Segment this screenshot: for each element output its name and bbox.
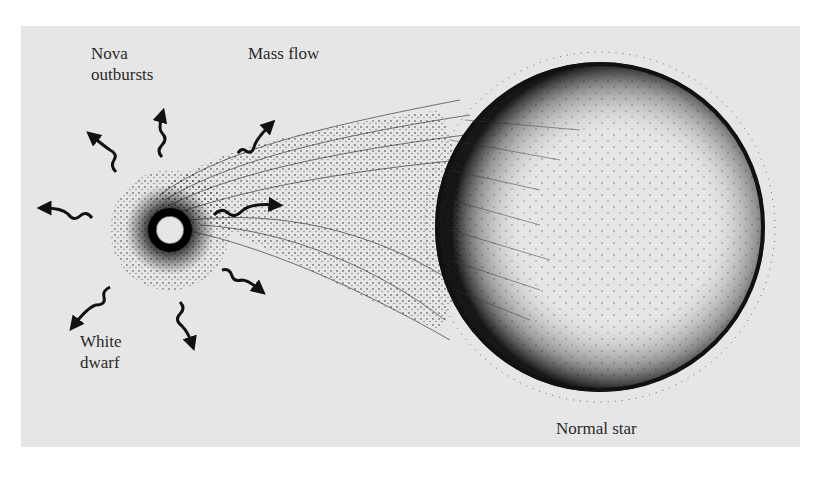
- normal-star: [425, 52, 775, 402]
- wavy-arrow-icon: [44, 208, 92, 219]
- white-dwarf: [110, 170, 230, 290]
- label-nova-outbursts: Nova outbursts: [91, 43, 153, 85]
- label-mass-flow: Mass flow: [248, 43, 319, 64]
- label-white-dwarf: White dwarf: [80, 331, 122, 373]
- wavy-arrow-icon: [92, 136, 116, 172]
- wavy-arrow-icon: [159, 115, 165, 157]
- wavy-arrow-icon: [177, 302, 192, 344]
- label-normal-star: Normal star: [556, 418, 637, 439]
- wavy-arrow-icon: [74, 287, 110, 325]
- wavy-arrow-icon: [222, 270, 260, 290]
